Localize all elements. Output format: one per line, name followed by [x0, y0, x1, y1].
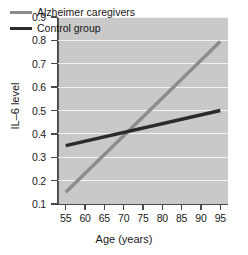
chart-legend: Alzheimer caregiversControl group: [10, 7, 135, 34]
y-tick-mark: [51, 86, 57, 87]
y-tick-mark: [51, 110, 57, 111]
figure-chart-il6-vs-age: 0.10.20.30.40.50.60.70.80.9 556065707580…: [0, 0, 248, 255]
y-tick-label: 0.2: [32, 176, 46, 186]
y-tick-label: 0.6: [32, 82, 46, 92]
y-tick-label: 0.4: [32, 129, 46, 139]
y-axis-line: [57, 17, 58, 205]
y-tick-mark: [51, 133, 57, 134]
y-tick-mark: [51, 180, 57, 181]
legend-item-1: Alzheimer caregivers: [10, 7, 135, 18]
x-tick-mark: [142, 204, 143, 210]
y-tick-mark: [51, 63, 57, 64]
x-tick-mark: [181, 204, 182, 210]
x-tick-mark: [220, 204, 221, 210]
x-tick-mark: [84, 204, 85, 210]
legend-line-swatch-icon: [10, 27, 32, 30]
x-tick-mark: [123, 204, 124, 210]
x-tick-mark: [104, 204, 105, 210]
y-tick-mark: [51, 203, 57, 204]
y-tick-label: 0.5: [32, 106, 46, 116]
y-tick-label: 0.7: [32, 59, 46, 69]
y-tick-label: 0.1: [32, 199, 46, 209]
series-lines-group: [58, 17, 228, 204]
legend-item-2: Control group: [10, 23, 135, 34]
y-tick-mark: [51, 157, 57, 158]
y-tick-label: 0.3: [32, 152, 46, 162]
plot-area: [58, 17, 228, 204]
x-tick-mark: [200, 204, 201, 210]
x-tick-mark: [162, 204, 163, 210]
x-tick-mark: [65, 204, 66, 210]
x-axis-title: Age (years): [0, 233, 248, 245]
legend-line-swatch-icon: [10, 11, 32, 14]
y-tick-label: 0.8: [32, 35, 46, 45]
y-axis-title: IL–6 level: [9, 51, 21, 161]
legend-item-label: Alzheimer caregivers: [37, 7, 135, 18]
legend-item-label: Control group: [37, 23, 101, 34]
x-tick-label: 95: [208, 213, 232, 224]
y-tick-mark: [51, 40, 57, 41]
